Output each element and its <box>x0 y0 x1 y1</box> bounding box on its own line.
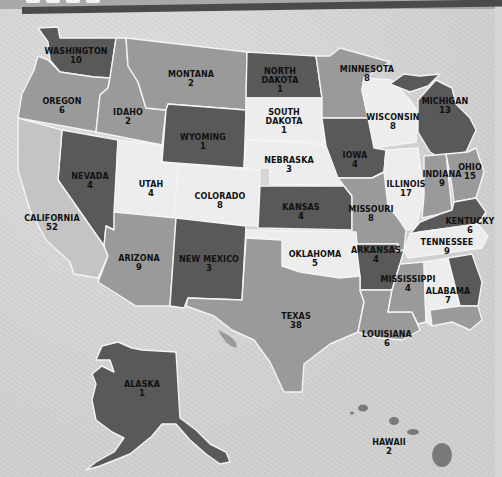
mexico-coast-shadow <box>218 330 237 348</box>
label-wyoming: WYOMING1 <box>180 133 226 151</box>
label-oklahoma: OKLAHOMA5 <box>289 250 342 268</box>
label-nebraska: NEBRASKA3 <box>264 156 314 174</box>
label-louisiana: LOUISIANA6 <box>362 330 412 348</box>
label-oregon: OREGON6 <box>42 97 81 115</box>
label-colorado: COLORADO8 <box>195 192 246 210</box>
label-arkansas: ARKANSAS4 <box>351 246 401 264</box>
state-hawaii-island1 <box>358 405 368 412</box>
label-utah: UTAH4 <box>139 180 164 198</box>
label-minnesota: MINNESOTA8 <box>340 65 394 83</box>
label-alabama: ALABAMA7 <box>426 287 471 305</box>
label-hawaii: HAWAII2 <box>372 438 406 456</box>
label-wisconsin: WISCONSIN8 <box>366 113 419 131</box>
state-hawaii-island4 <box>432 443 452 467</box>
label-michigan: MICHIGAN13 <box>422 97 469 115</box>
label-nevada: NEVADA4 <box>71 172 108 190</box>
state-hawaii-island3 <box>407 429 419 435</box>
label-new-mexico: NEW MEXICO3 <box>179 255 239 273</box>
label-kentucky: KENTUCKY6 <box>446 217 495 235</box>
state-michigan[interactable] <box>418 80 476 158</box>
label-idaho: IDAHO2 <box>113 108 143 126</box>
label-missouri: MISSOURI8 <box>348 205 393 223</box>
label-ohio: OHIO15 <box>458 163 482 181</box>
label-arizona: ARIZONA9 <box>118 254 160 272</box>
label-illinois: ILLINOIS17 <box>386 180 425 198</box>
label-texas: TEXAS38 <box>281 312 311 330</box>
label-tennessee: TENNESSEE9 <box>421 238 474 256</box>
state-alaska[interactable] <box>86 342 230 470</box>
label-iowa: IOWA4 <box>343 151 368 169</box>
state-hawaii-island5 <box>350 412 354 415</box>
label-indiana: INDIANA9 <box>422 170 461 188</box>
label-alaska: ALASKA1 <box>124 380 160 398</box>
state-florida <box>430 306 482 330</box>
state-hawaii-island2 <box>389 417 399 425</box>
label-north-dakota: NORTHDAKOTA1 <box>261 67 298 94</box>
label-california: CALIFORNIA52 <box>24 214 79 232</box>
label-montana: MONTANA2 <box>168 70 214 88</box>
label-south-dakota: SOUTHDAKOTA1 <box>265 108 302 135</box>
label-kansas: KANSAS4 <box>282 203 319 221</box>
label-washington: WASHINGTON10 <box>44 47 107 65</box>
